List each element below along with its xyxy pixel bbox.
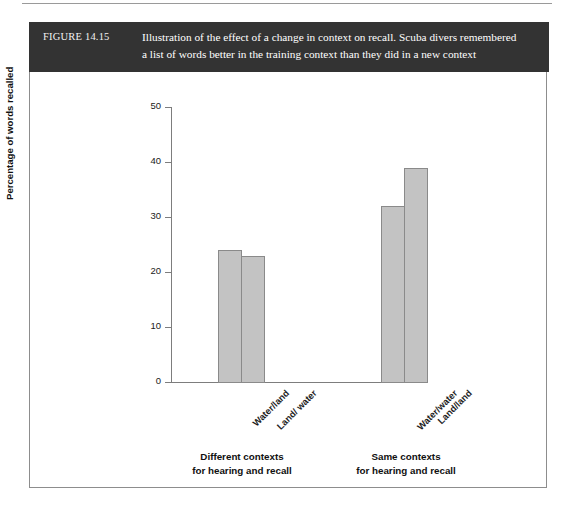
bar-chart: Percentage of words recalled 50 40 30 20…: [29, 72, 549, 490]
bar-water-water: [381, 206, 405, 383]
group-caption-line-1: Same contexts: [326, 450, 486, 464]
group-caption-different-contexts: Different contexts for hearing and recal…: [162, 450, 322, 477]
y-tick-10: 10: [165, 327, 171, 328]
y-tick-40: 40: [165, 162, 171, 163]
figure-block: FIGURE 14.15 Illustration of the effect …: [29, 22, 549, 490]
x-axis-line: [171, 382, 415, 383]
figure-number-label: FIGURE 14.15: [43, 31, 110, 42]
group-caption-line-1: Different contexts: [162, 450, 322, 464]
group-caption-line-2: for hearing and recall: [162, 464, 322, 478]
y-axis-title: Percentage of words recalled: [4, 67, 15, 200]
bar-land-water: [241, 256, 265, 383]
y-tick-label-20: 20: [150, 265, 161, 276]
caption-line-2: a list of words better in the training c…: [142, 46, 538, 63]
y-tick-label-0: 0: [156, 375, 161, 386]
figure-caption-text: Illustration of the effect of a change i…: [142, 29, 538, 62]
figure-caption-band: FIGURE 14.15 Illustration of the effect …: [29, 22, 549, 72]
y-tick-20: 20: [165, 272, 171, 273]
y-tick-label-40: 40: [150, 155, 161, 166]
y-axis-line: [171, 107, 172, 383]
y-tick-0: 0: [165, 382, 171, 383]
group-caption-same-contexts: Same contexts for hearing and recall: [326, 450, 486, 477]
y-tick-label-10: 10: [150, 320, 161, 331]
caption-line-1: Illustration of the effect of a change i…: [142, 29, 538, 46]
y-tick-30: 30: [165, 217, 171, 218]
y-tick-label-30: 30: [150, 210, 161, 221]
group-caption-line-2: for hearing and recall: [326, 464, 486, 478]
page-top-rule: [22, 3, 552, 4]
bar-water-land: [218, 250, 242, 383]
y-tick-label-50: 50: [150, 100, 161, 111]
y-tick-50: 50: [165, 107, 171, 108]
bar-land-land: [404, 168, 428, 383]
